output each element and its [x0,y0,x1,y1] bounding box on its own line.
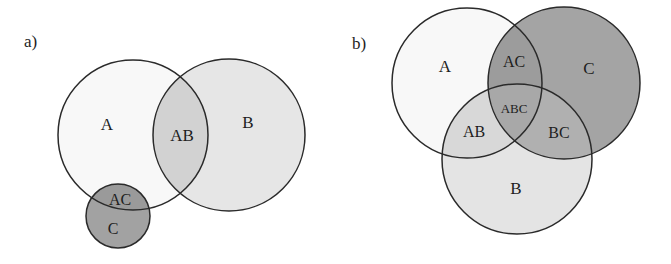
region-label-a: A [101,115,114,134]
region-label-c: C [108,220,119,237]
region-label-ac: AC [503,53,525,70]
region-label-ac: AC [109,191,131,208]
region-label-a: A [439,57,452,76]
region-label-ab: AB [463,123,485,140]
region-label-ab: AB [170,126,194,145]
region-label-b: B [510,179,521,198]
panel-a: a) A AB B AC C [24,32,305,248]
region-label-abc: ABC [501,101,528,116]
panel-b-label: b) [352,34,366,53]
region-label-b: B [242,113,253,132]
region-label-bc: BC [548,124,569,141]
panel-a-label: a) [24,32,37,51]
panel-b: b) A AC C ABC AB BC B [352,7,640,234]
venn-diagrams: a) A AB B AC C b) [0,0,671,264]
region-label-c: C [583,59,594,78]
